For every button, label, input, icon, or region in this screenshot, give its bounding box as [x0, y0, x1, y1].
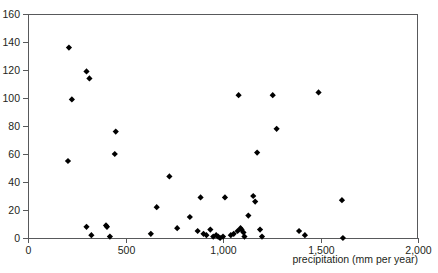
data-point: [257, 227, 263, 233]
x-axis-title: precipitation (mm per year): [293, 253, 418, 265]
data-point: [252, 199, 258, 205]
data-point: [274, 126, 280, 132]
data-point: [315, 89, 321, 95]
y-tick-label: 80: [8, 120, 20, 132]
data-point: [207, 227, 213, 233]
data-point: [166, 173, 172, 179]
data-point: [195, 228, 201, 234]
data-point: [339, 197, 345, 203]
y-tick-label: 0: [14, 232, 20, 244]
data-point: [65, 158, 71, 164]
data-point: [83, 68, 89, 74]
chart-canvas: 020406080100120140160 05001,0001,5002,00…: [0, 0, 438, 273]
y-tick-label: 60: [8, 148, 20, 160]
data-point: [254, 150, 260, 156]
data-point: [69, 96, 75, 102]
data-point: [83, 224, 89, 230]
data-point: [296, 228, 302, 234]
y-tick-group: 020406080100120140160: [2, 8, 28, 244]
data-point: [112, 151, 118, 157]
x-tick-label: 0: [26, 244, 32, 256]
data-point-group: [65, 45, 346, 242]
data-point: [187, 214, 193, 220]
data-point: [154, 204, 160, 210]
y-tick-label: 160: [2, 8, 20, 20]
data-point: [340, 235, 346, 241]
data-point: [113, 129, 119, 135]
y-tick-label: 120: [2, 64, 20, 76]
plot-frame: [28, 14, 418, 238]
data-point: [86, 75, 92, 81]
y-tick-label: 20: [8, 204, 20, 216]
data-point: [222, 194, 228, 200]
y-tick-label: 100: [2, 92, 20, 104]
x-tick-label: 1,000: [210, 244, 236, 256]
y-tick-label: 40: [8, 176, 20, 188]
data-point: [66, 45, 72, 51]
y-tick-label: 140: [2, 36, 20, 48]
data-point: [148, 231, 154, 237]
data-point: [236, 92, 242, 98]
data-point: [88, 232, 94, 238]
data-point: [250, 193, 256, 199]
data-point: [245, 213, 251, 219]
data-point: [197, 194, 203, 200]
data-point: [270, 92, 276, 98]
data-point: [174, 225, 180, 231]
x-tick-label: 500: [118, 244, 136, 256]
scatter-chart: 020406080100120140160 05001,0001,5002,00…: [0, 0, 438, 273]
data-point: [302, 232, 308, 238]
